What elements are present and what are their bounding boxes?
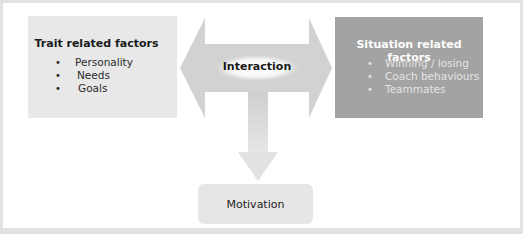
motivation-box: Motivation xyxy=(198,184,313,224)
bullet-icon: • xyxy=(367,57,373,70)
interaction-label: Interaction xyxy=(217,60,297,73)
bullet-icon: • xyxy=(55,69,61,82)
bullet-icon: • xyxy=(55,56,61,69)
list-item: •Goals xyxy=(55,82,113,95)
list-item: •Teammates xyxy=(367,83,461,96)
down-arrow xyxy=(238,92,278,181)
trait-factors-title: Trait related factors xyxy=(22,37,171,50)
bullet-icon: • xyxy=(55,82,61,95)
list-item: •Needs xyxy=(55,69,113,82)
list-item: •Personality xyxy=(55,56,113,69)
motivation-label: Motivation xyxy=(227,198,285,211)
situation-factors-list: •Winning / losing •Coach behaviours •Tea… xyxy=(367,57,461,96)
trait-factors-list: •Personality •Needs •Goals xyxy=(55,56,113,95)
bullet-icon: • xyxy=(367,70,373,83)
situation-factors-box: Situation related factors •Winning / los… xyxy=(335,17,483,118)
trait-factors-box: Trait related factors •Personality •Need… xyxy=(28,16,177,118)
list-item: •Coach behaviours xyxy=(367,70,461,83)
list-item: •Winning / losing xyxy=(367,57,461,70)
bullet-icon: • xyxy=(367,83,373,96)
